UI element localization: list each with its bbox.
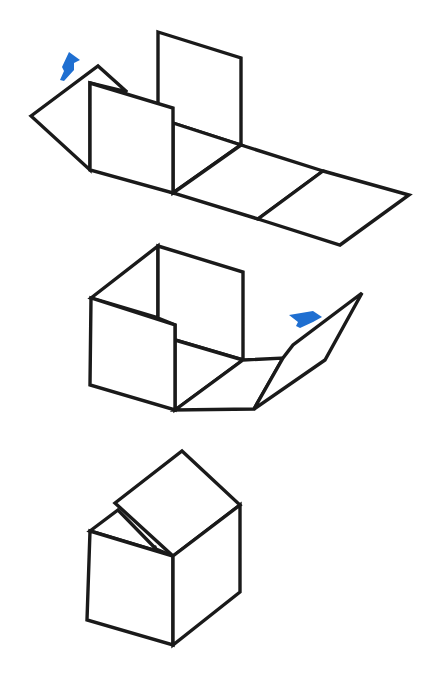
cube-face-front [87, 531, 173, 645]
stage-2-partial-fold [90, 246, 362, 410]
box-flap-right [254, 293, 362, 409]
stage-1-flat-net [31, 32, 409, 245]
stage-3-closed-cube [87, 451, 240, 645]
cube-folding-diagram [0, 0, 431, 688]
fold-up-arrow-icon [60, 52, 80, 81]
